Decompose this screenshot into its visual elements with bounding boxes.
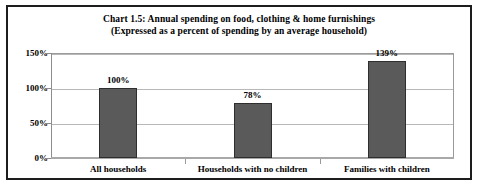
y-axis-tick-label: 100% — [8, 83, 48, 93]
y-axis-tick-label: 0% — [8, 153, 48, 163]
bar-value-label: 139% — [347, 48, 427, 58]
x-axis-category-label: Families with children — [320, 164, 454, 174]
x-axis-tick-mark — [320, 159, 321, 164]
bar-value-label: 100% — [78, 75, 158, 85]
chart-title-block: Chart 1.5: Annual spending on food, clot… — [8, 13, 470, 37]
x-axis-category-label: All households — [51, 164, 185, 174]
chart-subtitle: (Expressed as a percent of spending by a… — [8, 25, 470, 37]
chart-title: Chart 1.5: Annual spending on food, clot… — [8, 13, 470, 25]
bar — [368, 61, 406, 158]
y-axis-tick-mark — [46, 53, 51, 54]
bar — [234, 103, 272, 158]
bar — [99, 88, 137, 158]
x-axis-tick-mark — [185, 159, 186, 164]
y-axis-tick-label: 150% — [8, 48, 48, 58]
y-axis-tick-mark — [46, 88, 51, 89]
y-axis-tick-label: 50% — [8, 118, 48, 128]
x-axis-category-label: Households with no children — [185, 164, 319, 174]
bar-value-label: 78% — [213, 90, 293, 100]
y-axis-line — [51, 53, 52, 158]
y-axis-tick-mark — [46, 123, 51, 124]
chart-frame: Chart 1.5: Annual spending on food, clot… — [6, 5, 472, 180]
y-axis-tick-mark — [46, 158, 51, 159]
